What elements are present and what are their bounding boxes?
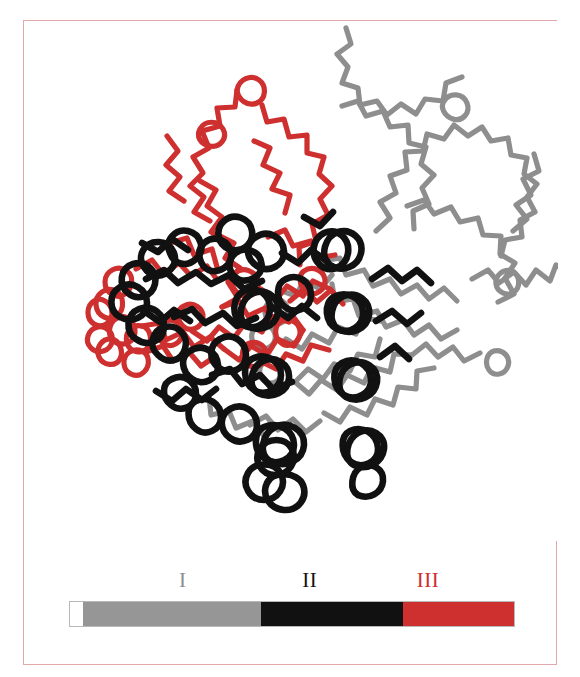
figure-frame: I II III xyxy=(23,20,557,665)
legend-bar-segment-iii xyxy=(403,602,514,626)
domain-legend-labels: I II III xyxy=(69,565,515,599)
legend-label-iii: III xyxy=(417,565,439,595)
figure-root: I II III xyxy=(0,0,580,677)
domain-legend-panel: I II III xyxy=(24,541,558,666)
legend-bar-segment-ii xyxy=(261,602,403,626)
legend-bar-segment-i xyxy=(83,602,261,626)
protein-backbone-diagram xyxy=(24,21,558,541)
legend-label-i: I xyxy=(179,565,187,595)
legend-label-ii: II xyxy=(302,565,317,595)
legend-bar-segment-n-terminus xyxy=(70,602,83,626)
domain-legend-bar xyxy=(69,601,515,627)
protein-structure-panel xyxy=(24,21,558,541)
